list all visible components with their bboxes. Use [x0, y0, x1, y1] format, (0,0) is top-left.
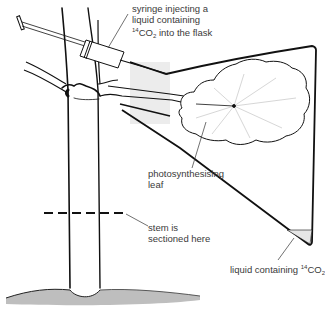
syringe-label: syringe injecting a liquid containing 14… [132, 3, 212, 42]
leaf-label-line2: leaf [148, 179, 224, 190]
syringe-label-line2: liquid containing [132, 14, 212, 25]
leaf-label-line1: photosynthesising [148, 168, 224, 179]
soil [6, 289, 200, 305]
liquid-leader-line [278, 238, 294, 260]
stem-label-line1: stem is [148, 222, 210, 233]
stem-leader-line [126, 214, 148, 226]
stem-label: stem is sectioned here [148, 222, 210, 244]
photosynthesising-leaf [179, 59, 310, 144]
stem-label-line2: sectioned here [148, 233, 210, 244]
syringe-leader-line [108, 14, 128, 48]
syringe-label-line3: 14CO2 into the flask [132, 25, 212, 42]
leaf-label: photosynthesising leaf [148, 168, 224, 190]
liquid-label: liquid containing 14CO2 [230, 262, 325, 279]
syringe-label-line1: syringe injecting a [132, 3, 212, 14]
